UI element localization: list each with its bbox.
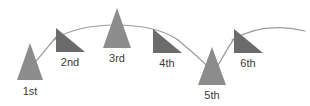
diagram-canvas: 1st2nd3rd4th5th6th	[0, 0, 310, 106]
marker-label-5: 5th	[204, 89, 219, 101]
marker-label-2: 2nd	[61, 56, 79, 68]
marker-label-4: 4th	[159, 57, 174, 69]
trajectory-sequence-diagram: 1st2nd3rd4th5th6th	[0, 0, 310, 106]
marker-label-3: 3rd	[109, 52, 125, 64]
marker-label-6: 6th	[240, 57, 255, 69]
marker-label-1: 1st	[23, 85, 38, 97]
